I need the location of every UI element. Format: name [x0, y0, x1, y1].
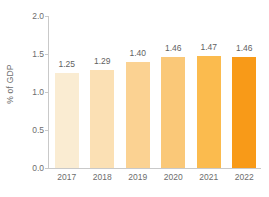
bar-chart: % of GDP 0.00.51.01.52.0 1.251.291.401.4… — [0, 0, 269, 197]
bar[interactable] — [161, 57, 185, 168]
y-axis-tick-label: 1.0 — [32, 87, 44, 97]
bar-group: 1.40 — [126, 16, 150, 168]
bars-layer: 1.251.291.401.461.471.46 — [49, 16, 261, 168]
y-axis-tick-mark — [45, 130, 48, 131]
x-axis-tick-label: 2019 — [128, 172, 147, 182]
y-axis-title: % of GDP — [0, 0, 20, 168]
x-axis-ticks: 201720182019202020212022 — [48, 172, 261, 190]
bar[interactable] — [197, 56, 221, 168]
x-axis-tick-label: 2018 — [93, 172, 112, 182]
bar[interactable] — [55, 73, 79, 168]
bar-group: 1.29 — [90, 16, 114, 168]
y-axis-tick-label: 1.5 — [32, 49, 44, 59]
x-axis-tick-label: 2017 — [57, 172, 76, 182]
x-axis-tick-label: 2020 — [164, 172, 183, 182]
bar-value-label: 1.47 — [200, 42, 217, 52]
bar-value-label: 1.25 — [58, 59, 75, 69]
x-axis-tick-label: 2021 — [199, 172, 218, 182]
bar-value-label: 1.46 — [165, 43, 182, 53]
x-axis-tick-label: 2022 — [235, 172, 254, 182]
y-axis-tick-mark — [45, 168, 48, 169]
y-axis-tick-label: 2.0 — [32, 11, 44, 21]
x-axis-line — [48, 168, 261, 169]
bar-group: 1.46 — [232, 16, 256, 168]
bar-value-label: 1.46 — [236, 43, 253, 53]
bar-group: 1.25 — [55, 16, 79, 168]
bar-group: 1.46 — [161, 16, 185, 168]
bar[interactable] — [90, 70, 114, 168]
bar-value-label: 1.29 — [94, 56, 111, 66]
y-axis-tick-mark — [45, 54, 48, 55]
y-axis-title-label: % of GDP — [5, 64, 15, 103]
bar-value-label: 1.40 — [129, 48, 146, 58]
y-axis-tick-label: 0.0 — [32, 163, 44, 173]
bar[interactable] — [232, 57, 256, 168]
bar[interactable] — [126, 62, 150, 168]
y-axis-tick-mark — [45, 92, 48, 93]
y-axis-tick-label: 0.5 — [32, 125, 44, 135]
y-axis-tick-mark — [45, 16, 48, 17]
bar-group: 1.47 — [197, 16, 221, 168]
plot-area: 0.00.51.01.52.0 1.251.291.401.461.471.46 — [48, 16, 261, 168]
